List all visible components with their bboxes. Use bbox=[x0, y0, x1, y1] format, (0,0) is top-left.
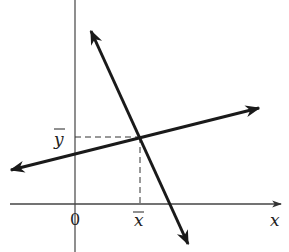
origin-label: 0 bbox=[70, 210, 80, 229]
svg-text:y: y bbox=[53, 129, 64, 149]
shallow-regression-line bbox=[11, 108, 259, 170]
y-mean-label: y bbox=[53, 129, 65, 149]
svg-text:x: x bbox=[134, 210, 144, 230]
regression-lines-diagram: x 0 x y bbox=[0, 0, 289, 252]
x-mean-label: x bbox=[133, 210, 144, 230]
x-axis-label: x bbox=[270, 210, 280, 230]
